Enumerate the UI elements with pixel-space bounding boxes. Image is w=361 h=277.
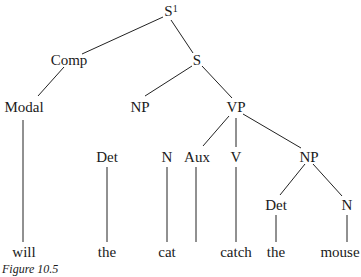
node-det-object: Det	[265, 197, 287, 213]
edge-np-det	[280, 164, 305, 195]
node-aux: Aux	[184, 149, 210, 165]
edge-np-n	[313, 164, 342, 196]
edge-vp-np	[243, 114, 301, 148]
leaf-catch: catch	[220, 244, 252, 260]
edge-vp-aux	[203, 116, 229, 146]
node-np-object: NP	[299, 149, 318, 165]
node-det-subject: Det	[96, 149, 118, 165]
edge-comp-modal	[38, 67, 64, 96]
figure-caption: Figure 10.5	[2, 262, 58, 277]
node-vp: VP	[226, 99, 245, 115]
node-n-subject: N	[162, 149, 173, 165]
leaf-mouse: mouse	[320, 244, 359, 260]
node-v: V	[231, 149, 242, 165]
node-comp: Comp	[51, 52, 88, 68]
edge-s1-s	[171, 20, 193, 53]
node-s-bar: S1	[164, 3, 177, 19]
leaf-cat: cat	[158, 244, 175, 260]
edge-s-vp	[202, 66, 232, 98]
node-modal: Modal	[4, 99, 43, 115]
leaf-will: will	[12, 244, 35, 260]
node-n-object: N	[342, 197, 353, 213]
edge-s1-comp	[82, 17, 163, 54]
node-np-subject: NP	[130, 99, 149, 115]
node-s: S	[193, 52, 201, 68]
leaf-the-subject: the	[98, 244, 116, 260]
leaf-the-object: the	[267, 244, 285, 260]
edge-s-np	[145, 66, 192, 96]
